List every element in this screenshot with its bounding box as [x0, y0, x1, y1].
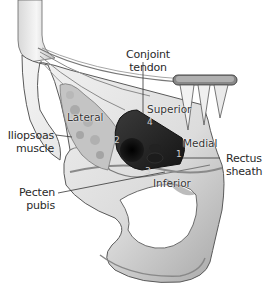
label-rectus-line1: Rectus: [226, 152, 264, 165]
label-iliopsoas-line2: muscle: [0, 142, 54, 155]
number-4: 4: [147, 117, 153, 127]
boundary-lateral: Lateral: [67, 111, 104, 123]
label-rectus-sheath: Rectus sheath: [226, 152, 264, 178]
number-2: 2: [114, 135, 120, 145]
number-3: 3: [145, 166, 151, 176]
label-rectus-line2: sheath: [226, 165, 264, 178]
anterior-superior-iliac-spine: [18, 0, 55, 62]
boundary-medial: Medial: [183, 137, 217, 149]
number-1: 1: [176, 149, 182, 159]
label-pecten-line1: Pecten: [0, 186, 55, 199]
label-conjoint-tendon: Conjoint tendon: [108, 48, 188, 74]
label-pecten-pubis: Pecten pubis: [0, 186, 55, 212]
label-iliopsoas-muscle: Iliopsoas muscle: [0, 129, 54, 155]
boundary-inferior: Inferior: [153, 177, 191, 189]
label-iliopsoas-line1: Iliopsoas: [0, 129, 54, 142]
label-pecten-line2: pubis: [0, 199, 55, 212]
boundary-superior: Superior: [147, 103, 191, 115]
